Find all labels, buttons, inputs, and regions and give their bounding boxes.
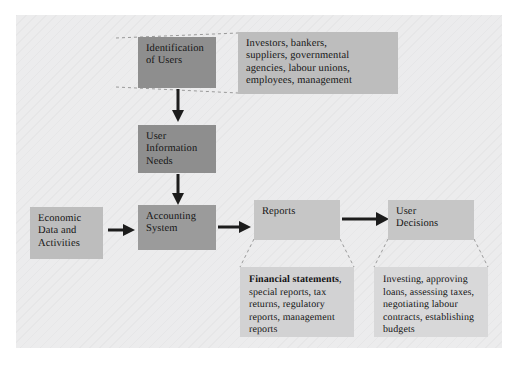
node-reports[interactable]: Reports bbox=[254, 200, 340, 240]
arrow-needs-to-accounting bbox=[170, 174, 186, 206]
node-reports-callout-label-bold: Financial statements bbox=[249, 274, 339, 285]
node-accounting-system-label: Accounting System bbox=[146, 211, 196, 234]
arrow-accounting-to-reports bbox=[218, 219, 252, 235]
node-users-callout-label: Investors, bankers, suppliers, governmen… bbox=[246, 38, 352, 86]
node-reports-callout[interactable]: Financial statements, special reports, t… bbox=[240, 267, 354, 337]
node-identification-of-users-label: Identification of Users bbox=[146, 43, 204, 66]
node-user-decisions[interactable]: User Decisions bbox=[388, 200, 474, 240]
node-reports-label: Reports bbox=[262, 206, 295, 217]
arrow-identification-to-needs bbox=[170, 89, 186, 123]
node-decisions-callout[interactable]: Investing, approving loans, assessing ta… bbox=[374, 267, 488, 337]
node-user-decisions-label: User Decisions bbox=[396, 206, 438, 229]
diagram-panel: Identification of Users Investors, banke… bbox=[16, 15, 502, 348]
node-economic-data-and-activities[interactable]: Economic Data and Activities bbox=[30, 207, 103, 259]
arrow-economic-to-accounting bbox=[108, 222, 136, 238]
node-users-callout[interactable]: Investors, bankers, suppliers, governmen… bbox=[238, 32, 398, 94]
node-identification-of-users[interactable]: Identification of Users bbox=[138, 37, 216, 88]
arrow-reports-to-decisions bbox=[342, 211, 390, 227]
node-user-information-needs[interactable]: User Information Needs bbox=[138, 125, 216, 173]
node-economic-data-and-activities-label: Economic Data and Activities bbox=[38, 213, 81, 249]
node-accounting-system[interactable]: Accounting System bbox=[138, 205, 216, 250]
node-decisions-callout-label: Investing, approving loans, assessing ta… bbox=[383, 274, 474, 335]
node-user-information-needs-label: User Information Needs bbox=[146, 131, 197, 167]
